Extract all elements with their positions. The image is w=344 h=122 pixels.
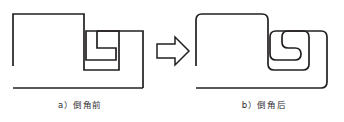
figure-background (0, 0, 344, 122)
technical-drawing-svg (0, 0, 344, 122)
figure-container: a）倒角前 b）倒角后 (0, 0, 344, 122)
